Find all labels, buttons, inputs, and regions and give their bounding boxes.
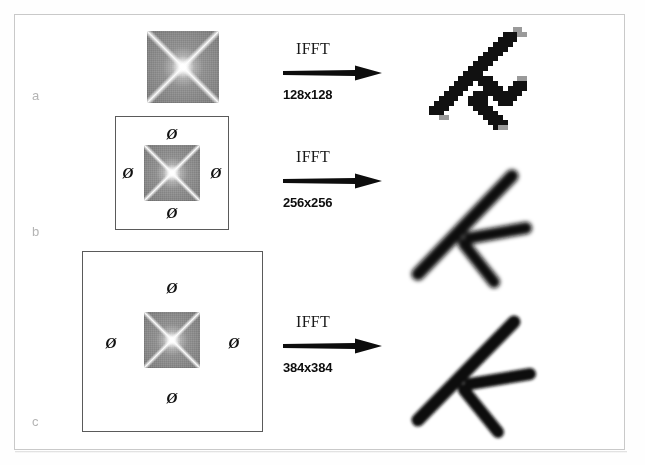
ifft-label-a: IFFT	[296, 40, 330, 58]
arrow-icon-a	[283, 65, 383, 81]
figure-root: a IFFT 128x128	[0, 0, 645, 465]
output-size-label-c: 384x384	[283, 360, 332, 375]
output-size-label-a: 128x128	[283, 87, 332, 102]
row-label-b: b	[32, 224, 40, 239]
zero-marker-c-left: Ø	[106, 336, 117, 351]
fft-magnitude-tile-c	[144, 312, 200, 368]
reconstructed-letter-panel-c	[402, 300, 552, 442]
row-label-c: c	[32, 414, 39, 429]
arrow-icon-b	[283, 173, 383, 189]
arrow-icon-c	[283, 338, 383, 354]
zero-marker-b-right: Ø	[211, 166, 222, 181]
ifft-arrow-group-b: IFFT 256x256	[283, 148, 393, 218]
figure-caption-ghost	[18, 455, 626, 463]
zero-marker-c-right: Ø	[229, 336, 240, 351]
reconstructed-letter-f-256-icon	[402, 152, 552, 292]
output-size-label-b: 256x256	[283, 195, 332, 210]
reconstructed-letter-f-384-icon	[402, 300, 552, 442]
zero-marker-c-bottom: Ø	[167, 391, 178, 406]
ifft-arrow-group-c: IFFT 384x384	[283, 313, 393, 383]
fft-magnitude-tile-b	[144, 145, 200, 201]
zero-marker-c-top: Ø	[167, 281, 178, 296]
zero-marker-b-left: Ø	[123, 166, 134, 181]
ifft-arrow-group-a: IFFT 128x128	[283, 40, 393, 110]
reconstructed-letter-panel-a	[424, 22, 542, 140]
reconstructed-letter-f-128-icon	[424, 22, 542, 140]
row-label-a: a	[32, 88, 40, 103]
figure-frame-shadow	[15, 451, 627, 453]
reconstructed-letter-panel-b	[402, 152, 552, 292]
zero-marker-b-bottom: Ø	[167, 206, 178, 221]
fft-magnitude-tile-a	[147, 31, 219, 103]
ifft-label-c: IFFT	[296, 313, 330, 331]
zero-marker-b-top: Ø	[167, 127, 178, 142]
ifft-label-b: IFFT	[296, 148, 330, 166]
